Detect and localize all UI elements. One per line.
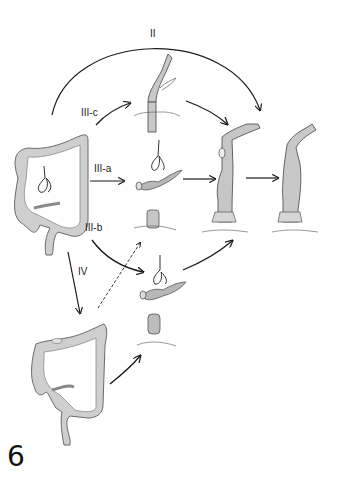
colon-illustration-iv — [32, 324, 107, 445]
arrow-iii-c-2 — [186, 101, 227, 124]
arrow-iv-1 — [68, 252, 80, 313]
surgical-pathway-diagram — [0, 0, 338, 478]
label-route-iii-c: III-c — [81, 107, 98, 118]
colon-illustration-initial — [15, 135, 89, 255]
arrow-iii-b-1 — [92, 240, 143, 272]
arrow-iii-b-2 — [183, 241, 232, 270]
rectal-stump-iii-a — [134, 210, 176, 230]
arrow-iv-2 — [110, 356, 140, 384]
label-route-iv: IV — [78, 266, 87, 277]
rectal-stump-iii-c — [134, 54, 180, 132]
arrow-iii-c-1 — [96, 103, 130, 125]
colon-segment-iii-b — [140, 255, 186, 300]
rectal-stump-iii-b — [137, 314, 176, 346]
label-route-iii-a: III-a — [94, 163, 111, 174]
label-route-iii-b: III-b — [85, 222, 102, 233]
label-route-ii: II — [150, 28, 156, 39]
anastomosis-result-2 — [272, 124, 318, 232]
colon-segment-iii-a — [136, 140, 182, 190]
figure-number: 6 — [7, 440, 25, 473]
